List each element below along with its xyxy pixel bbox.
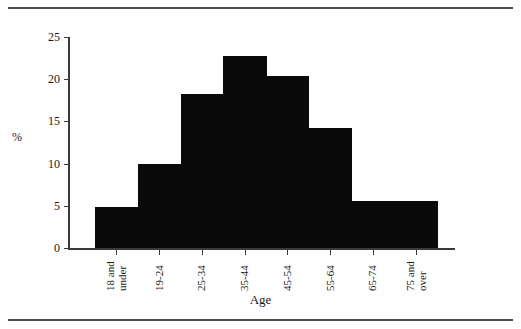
x-axis-tick-label-line: 45-54 xyxy=(281,265,293,291)
y-axis-tick-mark xyxy=(64,164,68,165)
x-axis-tick-label-line: 25-34 xyxy=(195,265,207,291)
top-divider-rule xyxy=(8,7,513,9)
y-axis-tick-mark xyxy=(64,121,68,122)
bar xyxy=(95,207,138,248)
y-axis-line xyxy=(68,37,70,249)
bottom-divider-rule xyxy=(8,319,513,321)
x-axis-tick-label: 45-54 xyxy=(282,265,294,291)
y-axis-tick-mark xyxy=(64,37,68,38)
x-axis-tick-mark xyxy=(116,250,117,255)
x-axis-tick-label-line: 18 and xyxy=(104,261,116,291)
x-axis-tick-label-line: over xyxy=(416,261,428,291)
x-axis-tick-label-line: 55-64 xyxy=(324,265,336,291)
bar-series xyxy=(95,37,437,248)
x-axis-line xyxy=(68,248,455,250)
x-axis-tick-label: 75 andover xyxy=(405,261,428,291)
x-axis-tick-label: 35-44 xyxy=(239,265,251,291)
y-axis-tick-label: 10 xyxy=(32,158,60,170)
y-axis-tick-mark xyxy=(64,248,68,249)
x-axis-tick-mark xyxy=(373,250,374,255)
x-axis-tick-label-line: 65-74 xyxy=(366,265,378,291)
y-axis-tick-label: 0 xyxy=(32,242,60,254)
x-axis-tick-mark xyxy=(202,250,203,255)
bar xyxy=(138,164,181,248)
bar xyxy=(309,128,352,248)
figure: % 0510152025 18 andunder19-2425-3435-444… xyxy=(0,0,521,329)
x-axis-tick-label-line: 19-24 xyxy=(153,265,165,291)
x-axis-tick-label: 55-64 xyxy=(325,265,337,291)
x-axis-tick-label: 65-74 xyxy=(367,265,379,291)
y-axis-tick-mark xyxy=(64,206,68,207)
y-axis-tick-label: 5 xyxy=(32,200,60,212)
y-axis-tick-label: 25 xyxy=(32,31,60,43)
bar xyxy=(181,94,224,248)
x-axis-tick-mark xyxy=(287,250,288,255)
x-axis-tick-mark xyxy=(416,250,417,255)
bar xyxy=(266,76,309,248)
bar xyxy=(223,56,266,248)
x-axis-tick-label-line: 35-44 xyxy=(238,265,250,291)
bar xyxy=(352,201,395,248)
x-axis-tick-mark xyxy=(245,250,246,255)
x-axis-tick-label: 19-24 xyxy=(154,265,166,291)
x-axis-tick-mark xyxy=(159,250,160,255)
x-axis-tick-label-line: 75 and xyxy=(404,261,416,291)
x-axis-tick-label: 25-34 xyxy=(196,265,208,291)
y-axis-title: % xyxy=(12,131,22,143)
x-axis-title: Age xyxy=(0,293,521,306)
x-axis-tick-label: 18 andunder xyxy=(105,261,128,291)
y-axis-tick-mark xyxy=(64,79,68,80)
bar xyxy=(394,201,437,248)
y-axis-tick-label: 15 xyxy=(32,115,60,127)
x-axis-tick-mark xyxy=(330,250,331,255)
x-axis-tick-label-line: under xyxy=(117,261,129,291)
y-axis-tick-label: 20 xyxy=(32,73,60,85)
